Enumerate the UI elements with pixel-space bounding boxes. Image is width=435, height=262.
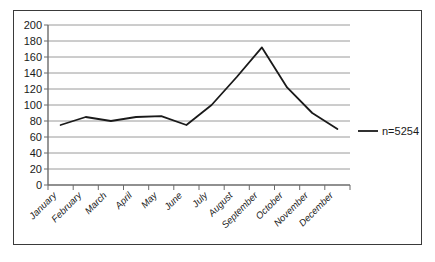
x-axis-category-labels: January February March April May June Ju… [26,189,336,231]
y-tick-label: 0 [36,179,42,191]
x-category-label: April [112,189,135,212]
x-category-label: May [139,189,160,210]
y-tick-label: 80 [30,115,42,127]
x-category-label: July [189,189,210,210]
data-series-line [61,47,338,129]
chart-figure: 200 180 160 140 120 100 80 60 40 20 0 [0,0,435,262]
y-tick-label: 60 [30,131,42,143]
x-category-label: June [161,190,184,213]
y-tick-label: 200 [24,19,42,31]
y-tick-label: 140 [24,67,42,79]
y-tick-label: 100 [24,99,42,111]
x-category-label: March [82,190,108,216]
y-tick-label: 20 [30,163,42,175]
y-tick-label: 40 [30,147,42,159]
y-tick-label: 120 [24,83,42,95]
line-chart: 200 180 160 140 120 100 80 60 40 20 0 [0,0,435,262]
legend-label: n=5254 [382,125,419,137]
gridlines-horizontal [48,25,350,169]
y-axis-tick-labels: 200 180 160 140 120 100 80 60 40 20 0 [24,19,42,191]
x-axis-ticks [48,185,350,190]
y-tick-label: 180 [24,35,42,47]
y-tick-label: 160 [24,51,42,63]
chart-legend: n=5254 [358,125,419,137]
